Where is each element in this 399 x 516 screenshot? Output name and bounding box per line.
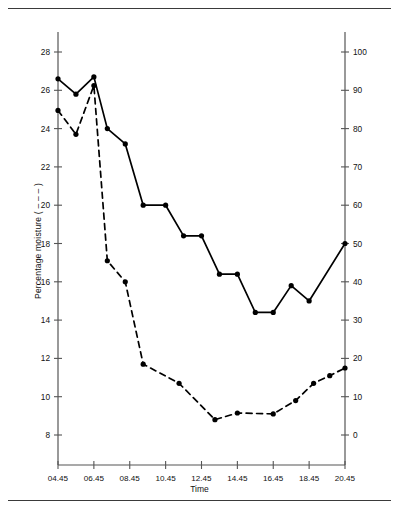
svg-text:12.45: 12.45 — [191, 474, 212, 483]
chart-page: 810121416182022242628 010203040506070809… — [0, 0, 399, 516]
svg-text:28: 28 — [41, 47, 51, 57]
svg-text:08.45: 08.45 — [120, 474, 141, 483]
svg-text:10: 10 — [41, 392, 51, 402]
svg-text:06.45: 06.45 — [84, 474, 105, 483]
svg-text:100: 100 — [353, 47, 367, 57]
svg-text:20.45: 20.45 — [335, 474, 356, 483]
svg-text:10: 10 — [353, 392, 363, 402]
svg-text:8: 8 — [45, 430, 50, 440]
svg-text:12: 12 — [41, 353, 51, 363]
svg-text:24: 24 — [41, 124, 51, 134]
svg-text:20: 20 — [353, 353, 363, 363]
x-axis-title: Time — [0, 484, 399, 494]
axis-lines — [58, 32, 345, 465]
chart-svg: 810121416182022242628 010203040506070809… — [0, 0, 399, 516]
chart-plot-area: 810121416182022242628 010203040506070809… — [0, 0, 399, 516]
svg-text:16.45: 16.45 — [263, 474, 284, 483]
series-relative-humidity — [55, 74, 347, 315]
svg-text:26: 26 — [41, 85, 51, 95]
x-axis-ticks: 04.4506.4508.4510.4512.4514.4516.4518.45… — [48, 461, 356, 483]
svg-text:10.45: 10.45 — [155, 474, 176, 483]
svg-text:0: 0 — [353, 430, 358, 440]
svg-text:60: 60 — [353, 200, 363, 210]
svg-text:70: 70 — [353, 162, 363, 172]
svg-text:04.45: 04.45 — [48, 474, 69, 483]
svg-text:80: 80 — [353, 124, 363, 134]
svg-text:14.45: 14.45 — [227, 474, 248, 483]
svg-text:30: 30 — [353, 315, 363, 325]
series-percentage-moisture — [55, 83, 347, 422]
svg-text:40: 40 — [353, 277, 363, 287]
left-axis-ticks: 810121416182022242628 — [41, 47, 62, 440]
left-axis-title: Percentage moisture ( – – – ) — [33, 141, 43, 341]
svg-text:18.45: 18.45 — [299, 474, 320, 483]
svg-text:90: 90 — [353, 85, 363, 95]
svg-text:50: 50 — [353, 239, 363, 249]
